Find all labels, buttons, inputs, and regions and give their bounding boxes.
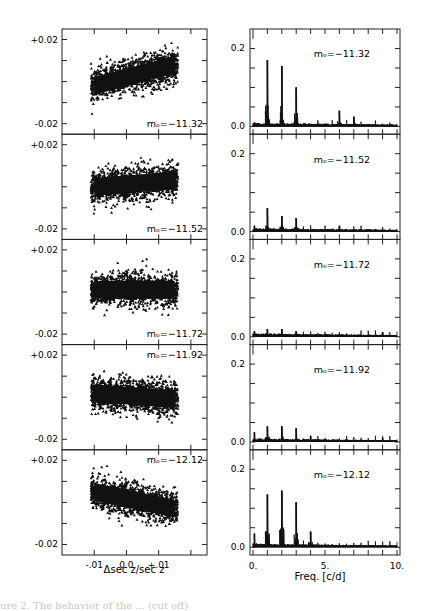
y-tick-label: -0.02 [35,434,58,444]
periodogram-panel: 0.20.0mₒ=−11.52 [231,134,400,239]
y-tick-label: 0.0 [231,437,246,447]
x-tick-label: -.01 [85,560,103,570]
y-tick-label: -0.02 [35,539,58,549]
y-tick-label: -0.02 [35,224,58,234]
y-tick-label: +0.02 [30,455,58,465]
magnitude-label: mₒ=−12.12 [147,454,203,465]
y-tick-label: 0.0 [231,121,246,131]
y-tick-label: 0.2 [231,254,245,264]
x-tick-label: 10. [390,561,404,571]
y-tick-label: 0.0 [231,227,246,237]
periodogram-panel: 0.20.0mₒ=−11.92 [231,345,400,450]
magnitude-label: mₒ=−11.92 [314,364,370,375]
y-tick-label: +0.02 [30,350,58,360]
y-tick-label: 0.2 [231,464,245,474]
figure: +0.02-0.02mₒ=−11.32+0.02-0.02mₒ=−11.52+0… [0,0,425,611]
magnitude-label: mₒ=−11.32 [314,48,370,59]
scatter-panel: +0.02-0.02mₒ=−12.12 [30,450,207,555]
y-tick-label: 0.0 [231,542,246,552]
x-tick-label: 5. [321,561,330,571]
scatter-panel: +0.02-0.02mₒ=−11.92 [30,345,207,450]
magnitude-label: mₒ=−11.92 [147,349,203,360]
y-tick-label: +0.02 [30,35,58,45]
y-tick-label: 0.0 [231,332,246,342]
figure-caption-fragment: ure 2. The behavior of the ... (cut off) [0,600,425,611]
periodogram-panel: 0.20.0mₒ=−11.32 [231,29,400,134]
y-tick-label: 0.2 [231,43,245,53]
right-x-axis-label: Freq. [c/d] [295,571,346,582]
magnitude-label: mₒ=−12.12 [314,469,370,480]
y-tick-label: +0.02 [30,245,58,255]
y-tick-label: -0.02 [35,329,58,339]
y-tick-label: 0.2 [231,149,245,159]
scatter-panel: +0.02-0.02mₒ=−11.32 [30,29,207,134]
y-tick-label: +0.02 [30,140,58,150]
scatter-panel: +0.02-0.02mₒ=−11.52 [30,134,207,239]
y-tick-label: 0.2 [231,359,245,369]
magnitude-label: mₒ=−11.52 [314,154,370,165]
magnitude-label: mₒ=−11.32 [147,118,203,129]
magnitude-label: mₒ=−11.72 [314,259,370,270]
x-tick-label: 0. [249,561,258,571]
scatter-panel: +0.02-0.02mₒ=−11.72 [30,239,207,344]
periodogram-column: 0.20.0mₒ=−11.320.20.0mₒ=−11.520.20.0mₒ=−… [231,29,404,571]
periodogram-panel: 0.20.0mₒ=−12.12 [231,450,400,555]
scatter-column: +0.02-0.02mₒ=−11.32+0.02-0.02mₒ=−11.52+0… [30,29,207,570]
y-tick-label: -0.02 [35,119,58,129]
magnitude-label: mₒ=−11.52 [147,223,203,234]
periodogram-panel: 0.20.0mₒ=−11.72 [231,239,400,344]
left-x-axis-label: Δsec z/sec z [104,564,165,575]
magnitude-label: mₒ=−11.72 [147,328,203,339]
